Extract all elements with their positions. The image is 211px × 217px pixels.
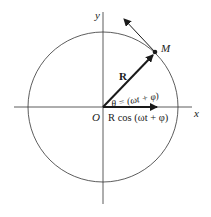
y-axis-label: y: [94, 9, 100, 21]
point-m-dot: [153, 50, 158, 55]
phasor-diagram: y x O M R θ = (ωt + φ) R cos (ωt + φ): [0, 0, 211, 217]
x-axis-label: x: [193, 107, 199, 119]
origin-label: O: [92, 111, 100, 123]
projection-label: R cos (ωt + φ): [108, 112, 169, 124]
point-m-label: M: [160, 42, 171, 54]
tangent-velocity-arrow: [124, 19, 155, 52]
vector-r-label: R: [119, 70, 128, 82]
